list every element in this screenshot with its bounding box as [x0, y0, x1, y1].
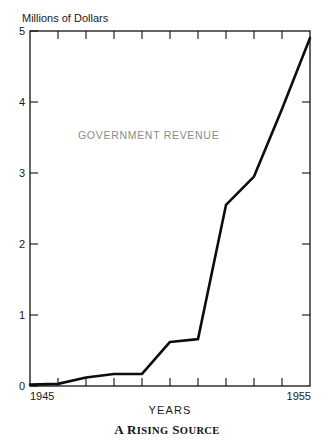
- y-axis-tick-labels: 5 4 3 2 1 0: [19, 25, 25, 392]
- y-tick-label: 1: [19, 309, 25, 321]
- x-tick-label-start: 1945: [30, 390, 54, 402]
- x-axis-ticks-top: [58, 31, 282, 39]
- series-annotation-government-revenue: GOVERNMENT REVENUE: [78, 129, 219, 141]
- x-axis-title: YEARS: [149, 404, 192, 416]
- y-tick-label: 0: [19, 380, 25, 392]
- y-tick-label: 3: [19, 167, 25, 179]
- figure-caption: A RISING SOURCE: [114, 422, 220, 437]
- x-axis-ticks-bottom: [58, 378, 282, 386]
- y-tick-label: 2: [19, 238, 25, 250]
- caption-word-two: RISING: [127, 422, 169, 437]
- y-tick-label: 5: [19, 25, 25, 37]
- revenue-trend-line: [30, 38, 310, 384]
- plot-frame: [30, 31, 310, 386]
- x-tick-label-end: 1955: [287, 390, 311, 402]
- y-axis-ticks: [30, 31, 38, 386]
- chart-figure: Millions of Dollars 5 4 3 2 1 0: [0, 0, 335, 442]
- y-axis-ticks-right: [302, 102, 310, 315]
- caption-word-three: SOURCE: [172, 422, 220, 437]
- line-chart: Millions of Dollars 5 4 3 2 1 0: [0, 0, 335, 442]
- y-tick-label: 4: [19, 96, 25, 108]
- y-axis-title: Millions of Dollars: [22, 12, 109, 24]
